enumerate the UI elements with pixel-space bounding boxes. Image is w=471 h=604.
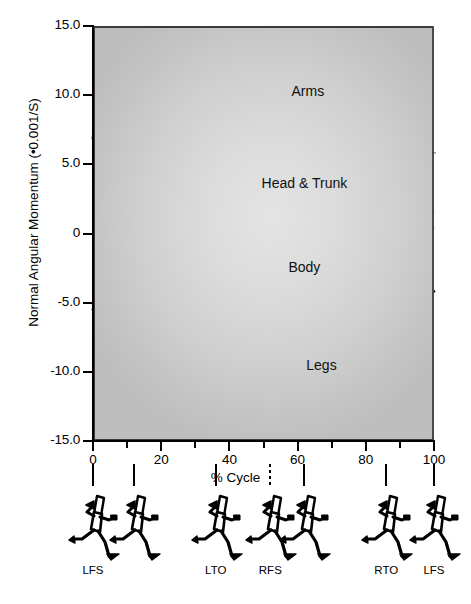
y-axis-spine [92,25,94,442]
x-tick-mark [228,442,230,451]
curve-label-body: Body [288,259,320,275]
gait-event-label: LFS [403,564,465,576]
y-tick-mark [83,371,92,373]
x-tick-minor [126,442,128,448]
curve-label-legs: Legs [306,357,336,373]
stick-figure [108,492,170,564]
stick-figure [278,492,340,564]
event-dropline [385,464,387,486]
runner-stick-figure-glyph [278,492,340,564]
y-tick-mark [83,302,92,304]
x-tick-label: 20 [141,452,181,467]
y-tick-label: 15.0 [8,17,80,32]
plot-border-right [432,26,434,441]
x-tick-minor [331,442,333,448]
runner-stick-figure-glyph [190,492,252,564]
plot-background [93,26,434,441]
gait-event-label: LFS [62,564,124,576]
stick-figure [190,492,252,564]
x-tick-label: 80 [346,452,386,467]
y-tick-mark [83,440,92,442]
y-tick-label: 5.0 [8,155,80,170]
event-dropline [433,464,435,486]
plot-area: ArmsHead & TrunkBodyLegs [93,26,434,441]
x-tick-label: 60 [278,452,318,467]
x-tick-mark [92,442,94,451]
gait-event-label: LTO [185,564,247,576]
y-tick-mark [83,94,92,96]
curve-label-head-trunk: Head & Trunk [262,175,348,191]
gait-event-label: RFS [239,564,301,576]
y-tick-mark [83,25,92,27]
event-dropline [92,464,94,486]
x-axis-title: % Cycle [0,470,471,485]
event-dropline [215,464,217,486]
runner-stick-figure-glyph [408,492,470,564]
y-axis-title: Normal Angular Momentum (•0.001/S) [26,13,41,413]
y-tick-label: 10.0 [8,86,80,101]
x-tick-mark [433,442,435,451]
event-dropline [303,464,305,486]
y-tick-mark [83,233,92,235]
y-tick-mark [83,163,92,165]
stick-figure [408,492,470,564]
x-tick-mark [365,442,367,451]
runner-stick-figure-glyph [108,492,170,564]
x-tick-mark [160,442,162,451]
y-tick-label: -5.0 [8,294,80,309]
x-tick-minor [194,442,196,448]
y-tick-label: -10.0 [8,363,80,378]
x-tick-minor [263,442,265,448]
stick-figure-row: LFS [0,492,471,592]
y-tick-label: 0 [8,225,80,240]
y-tick-label: -15.0 [8,432,80,447]
x-tick-minor [399,442,401,448]
curve-label-arms: Arms [291,83,324,99]
gait-angular-momentum-figure: ArmsHead & TrunkBodyLegs 15.010.05.00-5.… [0,0,471,604]
x-tick-mark [297,442,299,451]
plot-border-top [93,26,434,28]
event-dropline [269,464,271,486]
event-dropline [133,464,135,486]
